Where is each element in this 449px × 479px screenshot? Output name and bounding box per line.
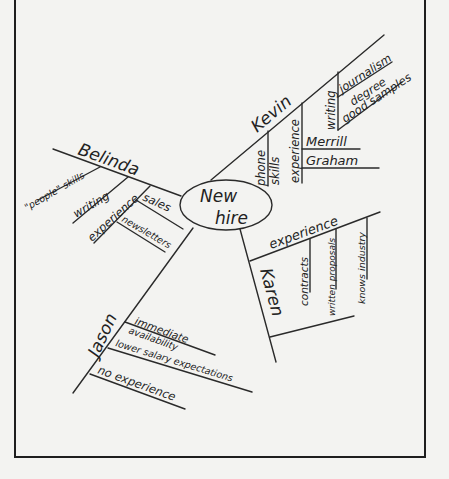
jason-no-experience-label: no experience [96, 363, 178, 404]
karen-contracts-label: contracts [298, 256, 310, 306]
karen-proposals-label: written proposals [327, 237, 337, 316]
kevin-writing-label: writing [324, 90, 338, 130]
branch-jason: Jason immediate availability lower salar… [73, 228, 252, 409]
karen-empty-line [270, 316, 354, 337]
center-label-line1: New [200, 186, 237, 206]
center-label-line2: hire [215, 208, 248, 228]
belinda-label: Belinda [76, 139, 143, 180]
kevin-merrill-label: Merrill [306, 134, 347, 149]
mind-map-svg: New hire Kevin phone skills experience M… [0, 0, 449, 479]
center-node: New hire [180, 180, 272, 230]
mind-map-canvas: New hire Kevin phone skills experience M… [0, 0, 449, 479]
kevin-phone-label-2: skills [268, 157, 282, 185]
kevin-experience-label: experience [288, 119, 302, 183]
kevin-graham-label: Graham [306, 153, 358, 168]
kevin-phone-label-1: phone [254, 150, 268, 187]
branch-kevin: Kevin phone skills experience Merrill Gr… [211, 35, 414, 187]
branch-belinda: Belinda "people" skills writing experien… [23, 139, 184, 252]
karen-industry-label: knows industry [356, 232, 367, 304]
branch-karen: Karen experience contracts written propo… [240, 212, 380, 362]
karen-label: Karen [256, 266, 288, 319]
belinda-sales-label: sales [141, 190, 173, 215]
